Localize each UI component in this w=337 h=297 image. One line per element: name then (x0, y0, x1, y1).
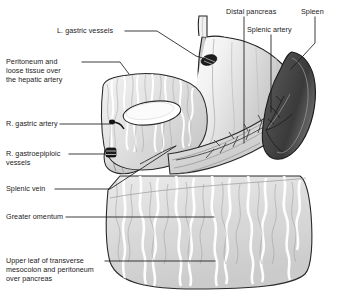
r-gastroepiploic-vessel-stump (106, 148, 116, 157)
label-spleen: Spleen (301, 7, 324, 16)
label-greater-omentum: Greater omentum (6, 212, 63, 221)
label-splenic-vein: Splenic vein (6, 184, 45, 193)
label-l-gastric-vessels: L. gastric vessels (57, 26, 113, 35)
leader-peritoneum (82, 62, 129, 74)
label-peritoneum-hepatic-artery: Peritoneum and loose tissue over the hep… (6, 57, 62, 84)
esophagus (198, 16, 207, 37)
label-r-gastroepiploic-vessels: R. gastroepiploic vessels (6, 149, 60, 167)
greater-omentum-organ (106, 176, 312, 289)
label-splenic-artery: Splenic artery (247, 25, 292, 34)
leader-l-gastric-vessels (125, 31, 206, 59)
anatomical-figure: L. gastric vessels Peritoneum and loose … (0, 0, 337, 297)
label-r-gastric-artery: R. gastric artery (6, 119, 58, 128)
label-upper-leaf-transverse-mesocolon: Upper leaf of transverse mesocolon and p… (6, 256, 94, 283)
label-distal-pancreas: Distal pancreas (226, 7, 276, 16)
